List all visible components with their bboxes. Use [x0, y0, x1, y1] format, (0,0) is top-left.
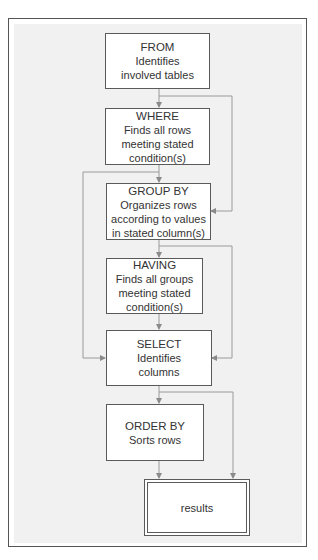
select-description: Identifies columns — [137, 351, 181, 379]
results-box: results — [144, 479, 250, 536]
having-title: HAVING — [133, 258, 176, 272]
where-title: WHERE — [136, 109, 179, 123]
from-description: Identifies involved tables — [121, 54, 194, 82]
having-description: Finds all groups meeting stated conditio… — [116, 272, 194, 314]
group-by-title: GROUP BY — [128, 184, 189, 198]
order-by-title: ORDER BY — [125, 419, 185, 433]
from-box: FROM Identifies involved tables — [105, 33, 210, 89]
order-by-box: ORDER BY Sorts rows — [106, 404, 204, 461]
group-by-description: Organizes rows according to values in st… — [111, 198, 206, 240]
from-title: FROM — [141, 40, 175, 54]
where-box: WHERE Finds all rows meeting stated cond… — [105, 108, 210, 165]
results-label: results — [147, 482, 247, 533]
group-by-box: GROUP BY Organizes rows according to val… — [106, 183, 211, 240]
select-title: SELECT — [137, 337, 182, 351]
where-description: Finds all rows meeting stated condition(… — [121, 123, 193, 165]
having-box: HAVING Finds all groups meeting stated c… — [106, 258, 203, 314]
select-box: SELECT Identifies columns — [106, 330, 212, 386]
order-by-description: Sorts rows — [129, 433, 181, 447]
